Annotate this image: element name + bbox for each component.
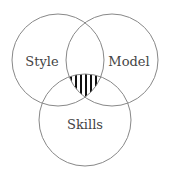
skills-label: Skills [67,117,103,132]
venn-diagram: Style Model Skills [0,0,173,180]
style-label: Style [25,54,59,69]
model-label: Model [108,54,149,69]
venn-svg: Style Model Skills [0,0,173,180]
